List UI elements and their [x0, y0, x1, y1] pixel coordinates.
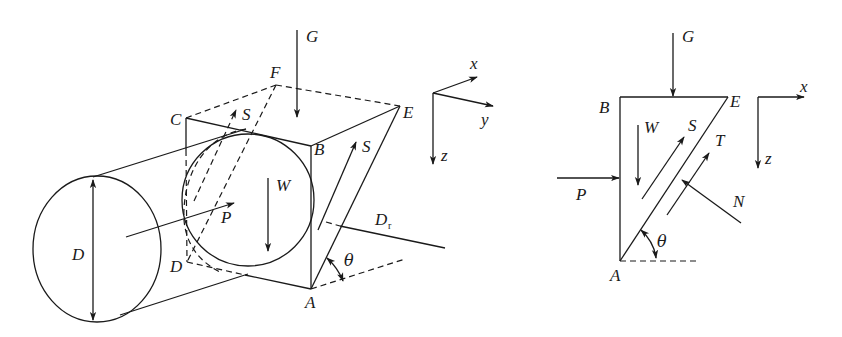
xyz-axes: x y z — [433, 54, 493, 165]
label-B: B — [314, 140, 325, 159]
label-E-2d: E — [729, 92, 741, 111]
label-theta-2d: θ — [657, 232, 667, 251]
axis-x-label-2d: x — [799, 77, 808, 96]
axis-z-label-2d: z — [764, 149, 772, 168]
label-P-2d: P — [575, 185, 586, 204]
label-S-2d: S — [688, 116, 697, 135]
label-Dr-sub: r — [388, 220, 392, 231]
axis-z-label: z — [440, 146, 448, 165]
label-S-top: S — [242, 105, 251, 124]
label-A: A — [304, 293, 316, 312]
label-E: E — [402, 103, 414, 122]
label-N-2d: N — [732, 192, 746, 211]
force-P-arrow — [126, 203, 234, 237]
right-2d-figure: G B E A W S T P N θ x z — [557, 27, 808, 285]
axis-x-label: x — [469, 54, 478, 73]
theta-angle-arc-2d — [641, 230, 656, 258]
inner-circle — [182, 134, 314, 266]
label-A-2d: A — [609, 266, 621, 285]
label-G: G — [306, 27, 318, 46]
left-3d-figure: G F C E B A D D S S W P D r θ x y z — [33, 27, 493, 322]
diagram-canvas: G F C E B A D D S S W P D r θ x y z — [0, 0, 842, 337]
axis-y-label: y — [479, 110, 489, 129]
hidden-Dr-start — [326, 222, 340, 226]
label-W: W — [276, 176, 292, 195]
label-theta: θ — [344, 251, 354, 270]
hidden-F-E — [276, 85, 400, 106]
label-B-2d: B — [599, 98, 610, 117]
label-F: F — [269, 63, 281, 82]
label-G-2d: G — [682, 27, 694, 46]
label-W-2d: W — [644, 118, 660, 137]
hidden-D-A — [187, 262, 245, 275]
label-C: C — [170, 110, 182, 129]
theta-angle-arc — [327, 258, 343, 281]
edge-D-A — [245, 275, 311, 289]
hidden-C-D — [186, 150, 187, 262]
cylinder-bottom-edge — [120, 274, 248, 315]
hidden-A-base — [311, 259, 405, 289]
edge-A-E-2d — [620, 97, 728, 261]
force-S-arrow-2d — [642, 137, 684, 199]
hidden-F-D — [187, 85, 276, 262]
label-D-diameter: D — [71, 245, 85, 264]
cylinder-end-circle — [33, 176, 161, 322]
label-P: P — [220, 208, 231, 227]
axis-x-arrow — [433, 77, 477, 93]
xz-axes: x z — [758, 77, 808, 168]
force-S-top-arrow — [194, 110, 236, 201]
Dr-line — [340, 226, 445, 248]
label-S-right: S — [362, 137, 371, 156]
axis-y-arrow — [433, 93, 493, 106]
label-T-2d: T — [715, 131, 726, 150]
label-Dr: D — [374, 210, 388, 229]
label-D-prime: D — [169, 257, 183, 276]
edge-A-E — [311, 106, 400, 289]
